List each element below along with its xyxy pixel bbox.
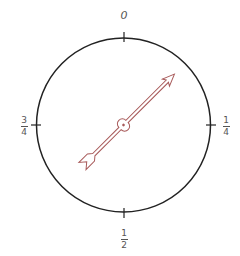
arrow-pointer-icon	[78, 69, 179, 170]
numerator: 1	[121, 229, 127, 238]
spinner-diagram	[0, 0, 240, 256]
label-one-quarter: 1 4	[220, 116, 232, 137]
label-three-quarters: 3 4	[18, 116, 30, 137]
denominator: 4	[21, 128, 27, 137]
denominator: 4	[223, 128, 229, 137]
label-one-half: 1 2	[118, 229, 130, 250]
denominator: 2	[121, 241, 127, 250]
numerator: 1	[223, 116, 229, 125]
label-zero: 0	[116, 10, 132, 21]
numerator: 3	[21, 116, 27, 125]
